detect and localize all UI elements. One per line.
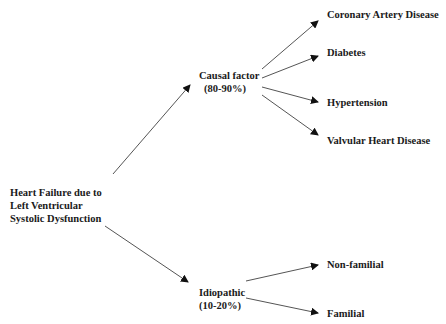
leaf-non-familial: Non-familial: [327, 258, 384, 271]
arrow-causal-to-cad: [262, 21, 318, 69]
leaf-coronary-artery-disease: Coronary Artery Disease: [327, 8, 439, 21]
leaf-valvular-heart-disease: Valvular Heart Disease: [327, 134, 430, 147]
causal-factor-node: Causal factor (80-90%): [199, 69, 259, 95]
arrows-layer: [0, 0, 446, 324]
idiopathic-node: Idiopathic (10-20%): [199, 286, 245, 312]
arrow-root-to-idiopathic: [105, 226, 188, 282]
arrow-causal-to-diabetes: [262, 56, 318, 78]
leaf-familial: Familial: [327, 307, 364, 320]
leaf-diabetes: Diabetes: [327, 46, 366, 59]
arrow-idiopathic-to-familial: [246, 298, 318, 313]
arrow-causal-to-valvular: [262, 95, 318, 135]
arrow-causal-to-hypertension: [262, 87, 318, 102]
arrow-idiopathic-to-nonfamilial: [246, 265, 318, 281]
leaf-hypertension: Hypertension: [327, 96, 388, 109]
arrow-root-to-causal: [113, 85, 190, 174]
root-node: Heart Failure due to Left Ventricular Sy…: [10, 186, 102, 225]
